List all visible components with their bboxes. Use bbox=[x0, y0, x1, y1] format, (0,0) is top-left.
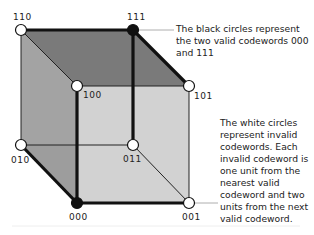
label-101: 101 bbox=[194, 91, 213, 101]
label-100: 100 bbox=[83, 90, 102, 100]
label-011: 011 bbox=[123, 154, 142, 164]
node-101 bbox=[184, 81, 195, 92]
node-001 bbox=[184, 198, 195, 209]
valid-codewords-note: The black circles represent the two vali… bbox=[176, 23, 314, 59]
node-100 bbox=[72, 81, 83, 92]
node-111 bbox=[128, 25, 139, 36]
node-010 bbox=[16, 140, 27, 151]
node-110 bbox=[16, 25, 27, 36]
label-110: 110 bbox=[13, 12, 32, 22]
label-000: 000 bbox=[69, 212, 88, 222]
label-001: 001 bbox=[182, 212, 201, 222]
invalid-codewords-note: The white circles represent invalid code… bbox=[220, 117, 314, 225]
label-111: 111 bbox=[127, 12, 146, 22]
node-000 bbox=[72, 198, 83, 209]
node-011 bbox=[128, 140, 139, 151]
label-010: 010 bbox=[11, 155, 30, 165]
